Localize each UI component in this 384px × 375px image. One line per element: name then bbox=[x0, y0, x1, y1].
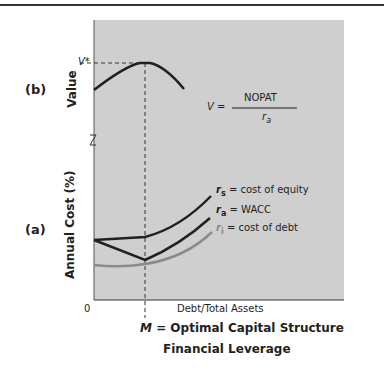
legend-wacc: ra = WACC bbox=[216, 204, 271, 218]
origin-label: 0 bbox=[84, 303, 90, 314]
legend-cost-of-debt: ri = cost of debt bbox=[216, 222, 298, 236]
vstar-label: V* bbox=[78, 56, 90, 67]
x-axis-label: Debt/Total Assets bbox=[177, 303, 264, 314]
financial-leverage-label: Financial Leverage bbox=[163, 342, 291, 356]
cost-axis-label: Annual Cost (%) bbox=[63, 179, 77, 279]
optimal-structure-label: M = Optimal Capital Structure bbox=[140, 321, 344, 335]
formula-denominator: ra bbox=[262, 111, 271, 125]
plot-panel bbox=[94, 20, 344, 300]
formula-numerator: NOPAT bbox=[244, 92, 277, 103]
legend-cost-of-equity: rs = cost of equity bbox=[216, 184, 309, 198]
part-b-label: (b) bbox=[25, 82, 46, 97]
formula-lhs: V = bbox=[207, 101, 225, 112]
value-axis-label: Value bbox=[65, 69, 79, 109]
part-a-label: (a) bbox=[25, 222, 46, 237]
chart-canvas bbox=[0, 0, 384, 375]
